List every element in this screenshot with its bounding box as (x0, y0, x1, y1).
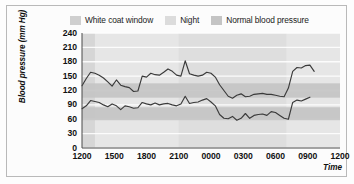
y-tick-label: 120 (51, 86, 77, 95)
y-tick-label: 210 (51, 43, 77, 52)
plot-wrapper: Blood pressure (mm Hg) Time 030609012015… (0, 0, 354, 184)
y-tick-label: 150 (51, 72, 77, 81)
x-tick-label: 1200 (323, 152, 354, 161)
x-tick-label: 0600 (259, 152, 293, 161)
x-tick-label: 0900 (291, 152, 325, 161)
y-tick-label: 30 (51, 129, 77, 138)
x-tick-label: 1800 (130, 152, 164, 161)
x-tick-label: 0300 (226, 152, 260, 161)
x-tick-label: 1200 (65, 152, 99, 161)
x-axis-title: Time (323, 163, 342, 172)
y-tick-label: 90 (51, 100, 77, 109)
y-tick-label: 180 (51, 57, 77, 66)
y-axis-title: Blood pressure (mm Hg) (18, 9, 27, 105)
y-tick-label: 240 (51, 29, 77, 38)
figure-container: White coat window Night Normal blood pre… (0, 0, 354, 184)
y-tick-label: 60 (51, 115, 77, 124)
x-tick-label: 0000 (194, 152, 228, 161)
x-tick-label: 1500 (97, 152, 131, 161)
x-tick-label: 2100 (162, 152, 196, 161)
